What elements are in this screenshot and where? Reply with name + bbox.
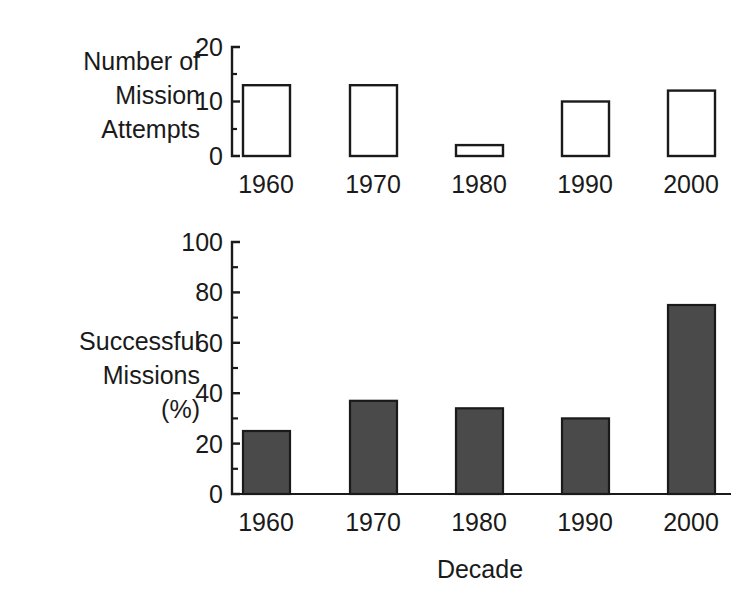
top-x-label-2000: 2000: [663, 170, 719, 198]
top-y-axis-label-line2: Mission: [115, 81, 200, 109]
bottom-bar-1980: [456, 408, 503, 494]
bottom-x-label-1980: 1980: [451, 508, 507, 536]
bottom-x-label-1960: 1960: [238, 508, 294, 536]
bottom-y-tick-label-100: 100: [181, 228, 223, 256]
bottom-y-tick-label-80: 80: [195, 278, 223, 306]
bottom-bar-2000: [668, 305, 715, 494]
bottom-y-axis-label-line1: Successful: [79, 327, 200, 355]
bottom-y-tick-label-40: 40: [195, 379, 223, 407]
top-x-label-1960: 1960: [238, 170, 294, 198]
figure-container: Number of Mission Attempts 20 10 0 1960 …: [0, 0, 746, 602]
bottom-y-axis-label-line3: (%): [161, 395, 200, 423]
top-bar-1990: [562, 102, 609, 157]
top-y-axis-label-line1: Number of: [83, 47, 200, 75]
top-x-label-1970: 1970: [345, 170, 401, 198]
bottom-x-axis-title: Decade: [437, 555, 523, 583]
bottom-y-axis-label-line2: Missions: [103, 361, 200, 389]
top-y-tick-label-0: 0: [209, 142, 223, 170]
two-panel-bar-chart: Number of Mission Attempts 20 10 0 1960 …: [0, 0, 746, 602]
top-y-axis-label-line3: Attempts: [101, 115, 200, 143]
bottom-bar-1970: [350, 401, 397, 494]
top-x-label-1990: 1990: [557, 170, 613, 198]
top-bar-1970: [350, 85, 397, 156]
top-bar-1960: [243, 85, 290, 156]
top-bar-1980: [456, 145, 503, 156]
bottom-bar-1990: [562, 418, 609, 494]
bottom-y-tick-label-60: 60: [195, 329, 223, 357]
top-x-label-1980: 1980: [451, 170, 507, 198]
bottom-bar-1960: [243, 431, 290, 494]
bottom-x-label-1990: 1990: [557, 508, 613, 536]
bottom-y-tick-label-20: 20: [195, 430, 223, 458]
top-y-tick-label-10: 10: [195, 87, 223, 115]
top-bar-2000: [668, 91, 715, 156]
top-y-tick-label-20: 20: [195, 33, 223, 61]
bottom-x-label-2000: 2000: [663, 508, 719, 536]
bottom-x-label-1970: 1970: [345, 508, 401, 536]
bottom-y-tick-label-0: 0: [209, 480, 223, 508]
